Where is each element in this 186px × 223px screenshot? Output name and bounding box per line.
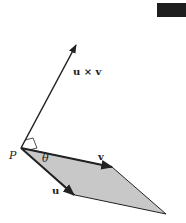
label-point-p: P [8,149,17,162]
label-angle-theta: θ [42,152,49,165]
label-u: u [52,185,59,196]
vector-cross-arrow [21,45,76,148]
label-cross: u × v [73,66,103,77]
label-v: v [97,151,105,162]
cross-product-diagram: u × v v u P θ [0,0,186,223]
